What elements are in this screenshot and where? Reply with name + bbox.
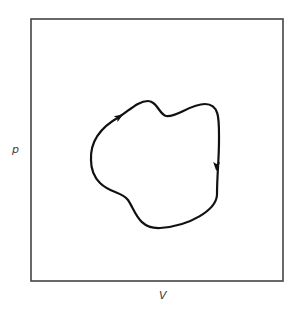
y-axis-label: p: [12, 144, 19, 155]
plot-frame: [31, 19, 283, 281]
pv-diagram-canvas: [0, 0, 300, 314]
pv-diagram: p V: [0, 0, 300, 314]
x-axis-label: V: [159, 290, 167, 301]
cycle-curve: [91, 101, 219, 228]
